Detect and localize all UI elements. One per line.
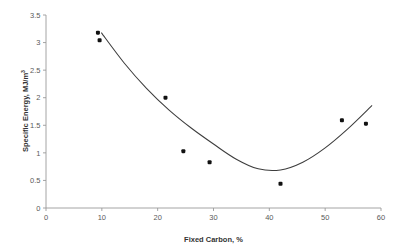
x-tick-label: 40 bbox=[265, 213, 273, 222]
y-tick-label: 1.5 bbox=[30, 121, 40, 130]
x-tick-label: 10 bbox=[98, 213, 106, 222]
y-tick-label: 2 bbox=[36, 93, 40, 102]
data-point-marker bbox=[208, 160, 212, 164]
y-tick-label: 1 bbox=[36, 149, 40, 158]
x-tick-label: 20 bbox=[153, 213, 161, 222]
y-axis-title-label: Specific Energy, MJ/m3 bbox=[20, 70, 30, 152]
data-point-marker bbox=[181, 149, 185, 153]
data-point-marker bbox=[340, 118, 344, 122]
scatter-chart: 00.511.522.533.5 0102030405060 Fixed Car… bbox=[0, 0, 400, 249]
y-axis-title-main: Specific Energy, MJ/m bbox=[21, 73, 30, 152]
data-point-marker bbox=[96, 31, 100, 35]
y-axis-title-superscript: 3 bbox=[20, 70, 26, 73]
x-axis-title-label: Fixed Carbon, % bbox=[184, 235, 243, 244]
data-point-marker bbox=[163, 96, 167, 100]
data-point-marker bbox=[364, 122, 368, 126]
x-tick-label: 60 bbox=[377, 213, 385, 222]
y-tick-label: 0 bbox=[36, 204, 40, 213]
x-tick-label: 30 bbox=[209, 213, 217, 222]
y-tick-label: 3 bbox=[36, 38, 40, 47]
x-axis-title: Fixed Carbon, % bbox=[184, 235, 243, 244]
y-tick-label: 2.5 bbox=[30, 66, 40, 75]
data-point-marker bbox=[279, 182, 283, 186]
chart-background bbox=[0, 0, 400, 249]
y-tick-label: 3.5 bbox=[30, 11, 40, 20]
x-tick-label: 0 bbox=[44, 213, 48, 222]
y-tick-label: 0.5 bbox=[30, 176, 40, 185]
x-tick-label: 50 bbox=[321, 213, 329, 222]
y-axis-title: Specific Energy, MJ/m3 bbox=[20, 70, 30, 152]
data-point-marker bbox=[98, 38, 102, 42]
chart-canvas: 00.511.522.533.5 0102030405060 Fixed Car… bbox=[0, 0, 400, 249]
